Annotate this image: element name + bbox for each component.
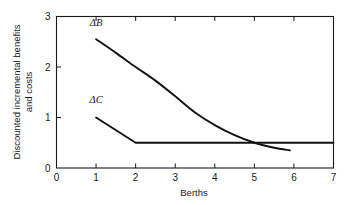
x-axis-title: Berths bbox=[180, 187, 208, 198]
x-tick-label: 2 bbox=[133, 172, 139, 183]
y-axis-title-line-2: and costs bbox=[23, 71, 34, 112]
chart-figure: 01234567 0123 ΔBΔC Berths Discounted inc… bbox=[0, 0, 354, 205]
x-tick-label: 0 bbox=[54, 172, 60, 183]
x-axis-tick-labels: 01234567 bbox=[54, 172, 337, 183]
plot-frame-box bbox=[57, 17, 334, 169]
y-axis-tick-labels: 0123 bbox=[45, 11, 51, 174]
x-tick-label: 5 bbox=[252, 172, 258, 183]
series-curve-ΔC bbox=[96, 118, 333, 143]
y-tick-label: 2 bbox=[45, 62, 51, 73]
benefits-costs-line-chart: 01234567 0123 ΔBΔC Berths Discounted inc… bbox=[0, 0, 354, 205]
x-tick-label: 3 bbox=[172, 172, 178, 183]
y-tick-label: 0 bbox=[45, 163, 51, 174]
x-tick-label: 7 bbox=[331, 172, 337, 183]
series-label-ΔC: ΔC bbox=[88, 94, 103, 105]
x-tick-label: 6 bbox=[291, 172, 297, 183]
series-annotation-group: ΔBΔC bbox=[88, 17, 103, 106]
series-curve-ΔB bbox=[96, 39, 290, 150]
y-tick-label: 1 bbox=[45, 112, 51, 123]
x-axis-ticks-bottom bbox=[96, 164, 294, 169]
y-axis-ticks-left bbox=[57, 67, 62, 118]
x-tick-label: 1 bbox=[93, 172, 99, 183]
data-series-group bbox=[96, 39, 333, 150]
series-label-ΔB: ΔB bbox=[89, 17, 103, 28]
y-tick-label: 3 bbox=[45, 11, 51, 22]
y-axis-title-line-1: Discounted incremental benefits bbox=[11, 24, 22, 159]
x-axis-ticks-top bbox=[96, 17, 294, 22]
x-tick-label: 4 bbox=[212, 172, 218, 183]
